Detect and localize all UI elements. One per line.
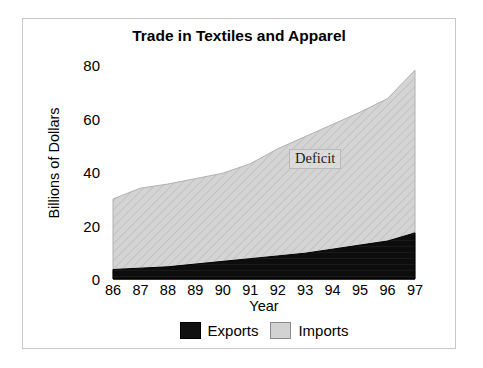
imports-swatch-icon [270, 322, 291, 339]
y-tick-label-40: 40 [60, 164, 100, 181]
y-tick-label-20: 20 [60, 218, 100, 235]
x-axis-label: Year [113, 298, 415, 314]
y-tick-label-80: 80 [60, 57, 100, 74]
x-tick-label-93: 93 [290, 282, 320, 298]
chart-figure: Trade in Textiles and Apparel 0 20 40 6 [0, 0, 483, 368]
x-tick-label-94: 94 [318, 282, 348, 298]
x-tick-label-86: 86 [98, 282, 128, 298]
y-tick-label-60: 60 [60, 111, 100, 128]
x-tick-label-89: 89 [180, 282, 210, 298]
x-tick-label-92: 92 [263, 282, 293, 298]
x-tick-label-87: 87 [125, 282, 155, 298]
x-tick-label-96: 96 [373, 282, 403, 298]
y-tick-label-0: 0 [60, 271, 100, 288]
x-tick-label-97: 97 [400, 282, 430, 298]
exports-swatch-icon [180, 322, 201, 339]
legend-label-exports: Exports [208, 322, 259, 339]
legend-item-exports[interactable]: Exports [180, 322, 259, 339]
x-tick-label-88: 88 [153, 282, 183, 298]
x-tick-label-91: 91 [235, 282, 265, 298]
deficit-annotation: Deficit [289, 149, 341, 169]
legend-label-imports: Imports [298, 322, 348, 339]
chart-legend: Exports Imports [113, 322, 415, 339]
legend-item-imports[interactable]: Imports [270, 322, 348, 339]
x-tick-label-95: 95 [345, 282, 375, 298]
x-tick-label-90: 90 [208, 282, 238, 298]
y-axis-label: Billions of Dollars [46, 83, 62, 243]
